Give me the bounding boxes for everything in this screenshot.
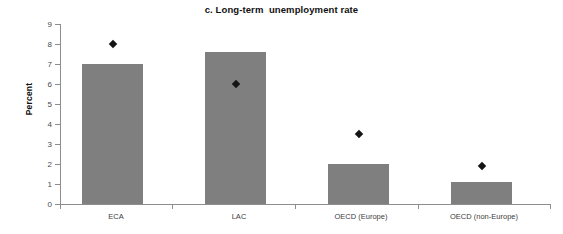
y-tick-label-9: 9 (34, 20, 52, 29)
diamond-marker-oecd-non-europe (477, 162, 485, 170)
y-tick-label-5: 5 (34, 100, 52, 109)
y-tick-8 (55, 44, 61, 45)
diamond-marker-oecd-europe (354, 130, 362, 138)
x-axis-line (60, 204, 551, 205)
y-tick-label-7: 7 (34, 60, 52, 69)
x-axis-label-oecd-europe: OECD (Europe) (335, 212, 388, 221)
y-tick-label-4: 4 (34, 120, 52, 129)
x-axis-label-eca: ECA (108, 212, 123, 221)
bar-eca (82, 64, 143, 204)
x-axis-label-lac: LAC (232, 212, 247, 221)
y-tick-label-3: 3 (34, 140, 52, 149)
bar-oecd-non-europe (451, 182, 512, 204)
y-tick-6 (55, 84, 61, 85)
y-tick-3 (55, 144, 61, 145)
y-tick-5 (55, 104, 61, 105)
plot-area: Percent 0123456789 ECALACOECD (Europe)OE… (0, 0, 563, 234)
x-tick-0 (60, 204, 61, 209)
x-tick-4 (550, 204, 551, 209)
x-tick-1 (172, 204, 173, 209)
y-tick-label-6: 6 (34, 80, 52, 89)
bar-lac (205, 52, 266, 204)
y-tick-1 (55, 184, 61, 185)
y-tick-7 (55, 64, 61, 65)
y-axis-title: Percent (24, 64, 34, 134)
x-axis-label-oecd-non-europe: OECD (non-Europe) (450, 212, 518, 221)
x-tick-3 (418, 204, 419, 209)
y-tick-label-2: 2 (34, 160, 52, 169)
y-tick-9 (55, 24, 61, 25)
y-tick-2 (55, 164, 61, 165)
y-tick-label-1: 1 (34, 180, 52, 189)
x-tick-2 (295, 204, 296, 209)
chart-figure: c. Long-term unemployment rate Percent 0… (0, 0, 563, 234)
y-tick-4 (55, 124, 61, 125)
y-tick-label-0: 0 (34, 200, 52, 209)
y-tick-label-8: 8 (34, 40, 52, 49)
y-axis-line (60, 24, 61, 205)
bar-oecd-europe (328, 164, 389, 204)
diamond-marker-eca (108, 40, 116, 48)
